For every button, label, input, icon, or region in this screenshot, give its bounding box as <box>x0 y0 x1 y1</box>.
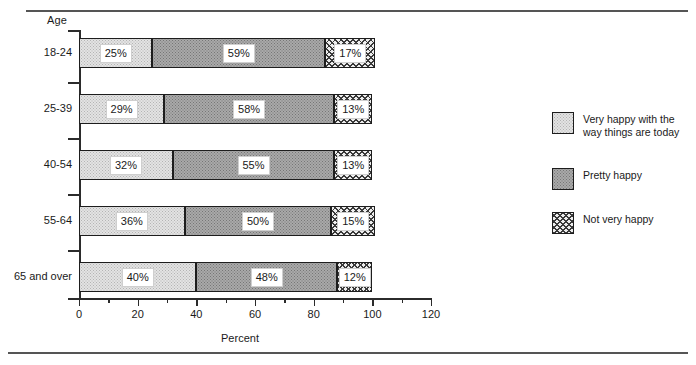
y-axis-tick <box>68 250 79 252</box>
bar-value-label: 50% <box>242 212 274 231</box>
bar-value-label: 12% <box>339 268 371 287</box>
x-axis-tick-minor <box>343 298 344 303</box>
bar-segment: 32% <box>79 150 173 180</box>
x-axis-tick-label: 100 <box>352 308 392 320</box>
x-axis-tick-label: 0 <box>59 308 99 320</box>
category-label: 25-39 <box>0 102 72 114</box>
bar-value-label: 40% <box>122 268 154 287</box>
legend-swatch <box>552 212 574 234</box>
bar-segment: 13% <box>334 94 372 124</box>
bar-segment: 40% <box>79 262 196 292</box>
bar-segment: 15% <box>331 206 375 236</box>
y-axis-title: Age <box>47 14 67 26</box>
legend-item: Very happy with the way things are today <box>552 112 679 138</box>
bar-segment: 17% <box>325 38 375 68</box>
x-axis-tick-major <box>138 298 139 306</box>
bar-segment: 36% <box>79 206 185 236</box>
bar-segment: 55% <box>173 150 334 180</box>
x-axis-tick-major <box>314 298 315 306</box>
y-axis-tick <box>68 30 79 32</box>
bar-value-label: 36% <box>116 212 148 231</box>
y-axis-tick <box>68 82 79 84</box>
x-axis-tick-major <box>431 298 432 306</box>
bar-segment: 25% <box>79 38 152 68</box>
legend-swatch <box>552 168 574 190</box>
category-label: 55-64 <box>0 214 72 226</box>
x-axis-tick-minor <box>402 298 403 303</box>
x-axis-tick-label: 120 <box>411 308 451 320</box>
bar-segment: 50% <box>185 206 332 236</box>
legend-label: Very happy with the way things are today <box>583 112 679 138</box>
x-axis-tick-label: 20 <box>118 308 158 320</box>
category-label: 18-24 <box>0 46 72 58</box>
bar-value-label: 15% <box>337 212 369 231</box>
legend-item: Pretty happy <box>552 168 642 190</box>
x-axis-tick-minor <box>226 298 227 303</box>
bar-value-label: 59% <box>223 44 255 63</box>
bar-value-label: 32% <box>110 156 142 175</box>
bar-segment: 12% <box>337 262 372 292</box>
legend-label: Not very happy <box>583 212 654 226</box>
y-axis-tick <box>68 194 79 196</box>
bar-segment: 59% <box>152 38 325 68</box>
legend-label: Pretty happy <box>583 168 642 182</box>
bar-value-label: 13% <box>337 156 369 175</box>
x-axis-tick-major <box>372 298 373 306</box>
x-axis-tick-minor <box>167 298 168 303</box>
x-axis-tick-label: 40 <box>176 308 216 320</box>
legend-item: Not very happy <box>552 212 654 234</box>
y-axis-tick <box>68 138 79 140</box>
bar-segment: 29% <box>79 94 164 124</box>
x-axis-tick-major <box>79 298 80 306</box>
bar-segment: 48% <box>196 262 337 292</box>
x-axis-title: Percent <box>0 332 480 344</box>
category-label: 40-54 <box>0 158 72 170</box>
bar-value-label: 13% <box>337 100 369 119</box>
x-axis-tick-major <box>255 298 256 306</box>
bar-value-label: 58% <box>233 100 265 119</box>
x-axis-tick-major <box>196 298 197 306</box>
bar-value-label: 25% <box>100 44 132 63</box>
legend-swatch <box>552 112 574 134</box>
bar-value-label: 48% <box>251 268 283 287</box>
bar-segment: 13% <box>334 150 372 180</box>
y-axis-tick <box>68 298 79 300</box>
category-label: 65 and over <box>0 270 72 282</box>
bar-value-label: 29% <box>106 100 138 119</box>
bar-value-label: 55% <box>238 156 270 175</box>
x-axis-tick-label: 60 <box>235 308 275 320</box>
x-axis-tick-minor <box>284 298 285 303</box>
x-axis-tick-label: 80 <box>294 308 334 320</box>
x-axis-tick-minor <box>108 298 109 303</box>
bar-value-label: 17% <box>334 44 366 63</box>
bar-segment: 58% <box>164 94 334 124</box>
